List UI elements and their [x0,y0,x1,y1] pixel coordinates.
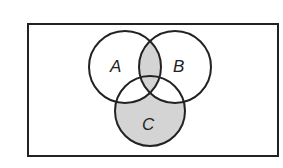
set-a-label: A [109,57,121,76]
venn-diagram: A B C [0,0,283,168]
set-b-label: B [173,57,184,76]
set-c-label: C [142,115,155,134]
